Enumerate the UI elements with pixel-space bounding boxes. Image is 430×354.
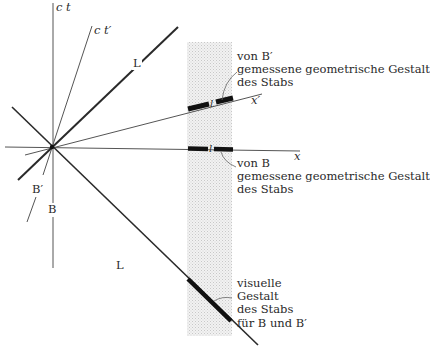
rod-length-symbol-x: l	[209, 142, 212, 155]
ct-prime-axis	[43, 26, 92, 175]
light-line-upper	[18, 27, 178, 180]
annotation-line: des Stabs	[237, 303, 307, 316]
light-line-lower-label: L	[116, 259, 124, 272]
observer-b-prime-label: B′	[32, 183, 43, 196]
x-prime-axis-label: x′	[251, 94, 260, 107]
ct-axis-label: c t	[56, 1, 71, 14]
rod-worldtube-band	[187, 42, 232, 336]
annotation-line: des Stabs	[237, 76, 430, 89]
annotation-line: für B und B′	[237, 317, 307, 330]
b-prime-worldline-lower	[27, 197, 36, 222]
rod-length-symbol-x-prime: l	[210, 97, 213, 110]
ct-prime-axis-label: c t′	[94, 24, 111, 37]
observer-b-label: B	[48, 203, 56, 216]
light-line-upper-label: L	[133, 57, 141, 70]
origin-point	[50, 145, 54, 149]
rod-segment-x-left	[188, 149, 208, 150]
annotation-measured-by-b-prime: von B′ gemessene geometrische Gestalt de…	[237, 50, 430, 90]
rod-segment-x-right	[214, 149, 233, 150]
annotation-measured-by-b: von B gemessene geometrische Gestalt des…	[237, 157, 430, 197]
annotation-visual-shape: visuelle Gestalt des Stabs für B und B′	[237, 277, 307, 330]
annotation-line: des Stabs	[237, 183, 430, 196]
